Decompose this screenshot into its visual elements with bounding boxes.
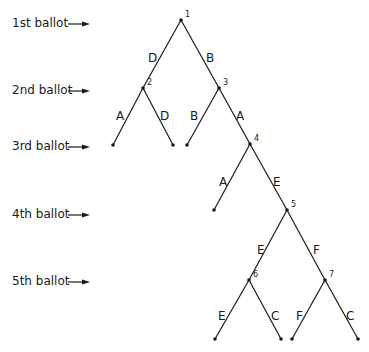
- decision-node: [285, 208, 289, 212]
- leaf-node: [279, 337, 283, 341]
- node-number: 1: [185, 11, 190, 19]
- leaf-node: [290, 337, 294, 341]
- node-number: 4: [254, 135, 259, 143]
- leaf-node: [356, 337, 360, 341]
- leaf-node: [185, 143, 189, 147]
- decision-node: [323, 278, 327, 282]
- tree-nodes: [111, 18, 360, 341]
- arrow-head-icon: [82, 145, 90, 150]
- edge-label: F: [296, 310, 303, 322]
- ballot-row-label: 1st ballot: [12, 17, 68, 29]
- edge-label: A: [116, 110, 124, 122]
- row-arrows: [68, 22, 90, 285]
- edge-label: B: [206, 52, 214, 64]
- decision-node: [248, 142, 252, 146]
- arrow-head-icon: [82, 89, 90, 94]
- node-number: 6: [253, 271, 258, 279]
- ballot-row-label: 3rd ballot: [12, 140, 69, 152]
- edge-label: F: [313, 244, 320, 256]
- node-number: 3: [223, 79, 228, 87]
- leaf-node: [111, 143, 115, 147]
- leaf-node: [213, 337, 217, 341]
- ballot-row-label: 2nd ballot: [12, 84, 72, 96]
- leaf-node: [212, 208, 216, 212]
- edge-label: C: [346, 310, 354, 322]
- arrow-head-icon: [82, 213, 90, 218]
- voting-tree-diagram: [0, 0, 369, 352]
- arrow-head-icon: [82, 280, 90, 285]
- decision-node: [217, 86, 221, 90]
- edge-label: D: [148, 52, 157, 64]
- decision-node: [179, 18, 183, 22]
- edge-label: A: [219, 176, 227, 188]
- node-number: 5: [291, 201, 296, 209]
- decision-node: [247, 278, 251, 282]
- edge-label: E: [257, 244, 265, 256]
- decision-node: [141, 86, 145, 90]
- leaf-node: [171, 143, 175, 147]
- edge-label: B: [190, 110, 198, 122]
- arrow-head-icon: [82, 22, 90, 27]
- node-number: 2: [147, 79, 152, 87]
- ballot-row-label: 5th ballot: [12, 275, 69, 287]
- ballot-row-label: 4th ballot: [12, 208, 69, 220]
- edge-label: E: [273, 176, 281, 188]
- edge-label: C: [271, 310, 279, 322]
- tree-edges: [113, 20, 358, 339]
- edge-label: A: [236, 110, 244, 122]
- node-number: 7: [329, 271, 334, 279]
- tree-edge: [219, 88, 250, 144]
- edge-label: E: [218, 310, 226, 322]
- edge-label: D: [160, 110, 169, 122]
- tree-edge: [250, 144, 287, 210]
